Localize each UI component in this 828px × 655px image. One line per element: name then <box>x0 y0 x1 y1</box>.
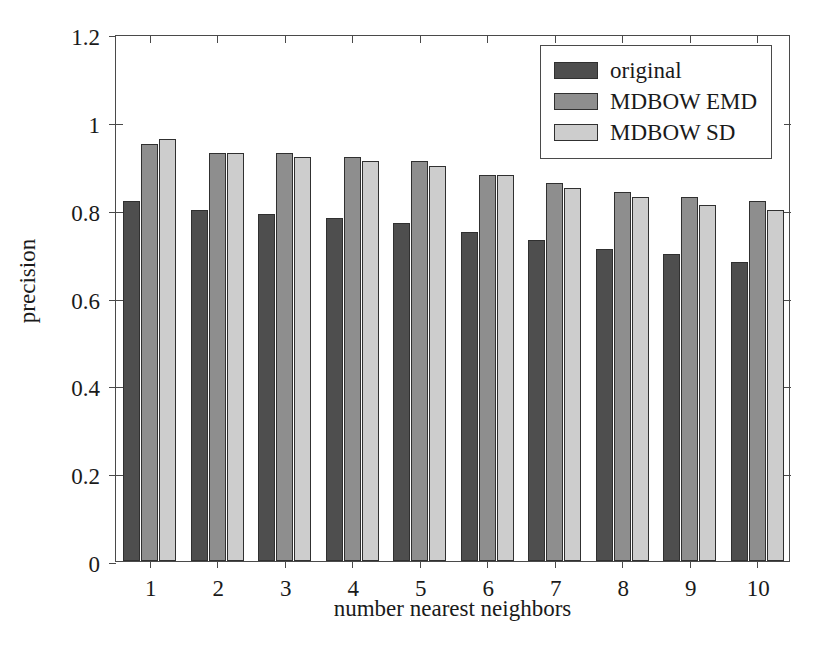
bar <box>681 197 698 562</box>
bar <box>663 254 680 561</box>
y-tick-right <box>784 124 791 125</box>
bar <box>294 157 311 561</box>
y-tick-0.2: 0.2 <box>109 475 116 476</box>
x-tick-top <box>757 36 758 43</box>
bar <box>767 210 784 561</box>
bar <box>614 192 631 561</box>
bar <box>123 201 140 561</box>
x-tick-3: 3 <box>285 561 286 568</box>
bar <box>479 175 496 561</box>
bar <box>191 210 208 561</box>
y-tick-label: 1.2 <box>71 26 100 49</box>
bar <box>731 262 748 561</box>
bar <box>276 153 293 561</box>
y-tick-0.8: 0.8 <box>109 212 116 213</box>
legend-swatch-icon <box>554 124 598 141</box>
bar <box>632 197 649 562</box>
legend-label: original <box>610 59 682 82</box>
y-tick-inner <box>116 475 123 476</box>
x-tick-7: 7 <box>555 561 556 568</box>
bar <box>411 161 428 561</box>
y-tick-0.4: 0.4 <box>109 387 116 388</box>
bar <box>362 161 379 561</box>
legend-item-mdbow-sd: MDBOW SD <box>554 117 757 148</box>
y-tick-label: 0.2 <box>71 465 100 488</box>
x-tick-top <box>690 36 691 43</box>
x-tick-2: 2 <box>217 561 218 568</box>
bar <box>141 144 158 561</box>
legend-label: MDBOW EMD <box>610 90 757 113</box>
bar <box>461 232 478 561</box>
x-tick-top <box>217 36 218 43</box>
bar <box>528 240 545 561</box>
x-tick-top <box>622 36 623 43</box>
x-tick-10: 10 <box>757 561 758 568</box>
bar <box>564 188 581 561</box>
bar-chart-figure: precision 00.20.40.60.811.2 12345678910 … <box>0 0 828 655</box>
y-tick-inner <box>116 212 123 213</box>
bar <box>596 249 613 561</box>
x-tick-5: 5 <box>420 561 421 568</box>
y-tick-label: 0.8 <box>71 201 100 224</box>
x-tick-top <box>555 36 556 43</box>
bar <box>546 183 563 561</box>
x-tick-top <box>150 36 151 43</box>
x-tick-4: 4 <box>352 561 353 568</box>
bar <box>344 157 361 561</box>
legend-label: MDBOW SD <box>610 121 735 144</box>
chart-legend: originalMDBOW EMDMDBOW SD <box>540 45 772 159</box>
y-tick-inner <box>116 124 123 125</box>
x-tick-9: 9 <box>690 561 691 568</box>
bar <box>749 201 766 561</box>
y-tick-0.6: 0.6 <box>109 300 116 301</box>
legend-item-original: original <box>554 55 757 86</box>
y-tick-inner <box>116 300 123 301</box>
x-axis-title: number nearest neighbors <box>115 596 790 622</box>
y-tick-label: 0 <box>89 553 101 576</box>
y-tick-label: 0.6 <box>71 289 100 312</box>
x-tick-top <box>285 36 286 43</box>
bar <box>326 218 343 561</box>
bar <box>209 153 226 561</box>
x-tick-top <box>420 36 421 43</box>
y-tick-label: 0.4 <box>71 377 100 400</box>
x-tick-6: 6 <box>487 561 488 568</box>
x-tick-top <box>487 36 488 43</box>
y-tick-0: 0 <box>109 563 116 564</box>
legend-item-mdbow-emd: MDBOW EMD <box>554 86 757 117</box>
y-tick-right <box>784 212 791 213</box>
bar <box>429 166 446 561</box>
bar <box>258 214 275 561</box>
y-axis-title: precision <box>10 0 46 562</box>
bar <box>497 175 514 561</box>
x-tick-top <box>352 36 353 43</box>
y-tick-right <box>784 475 791 476</box>
bar <box>227 153 244 561</box>
bar <box>699 205 716 561</box>
y-tick-1.2: 1.2 <box>109 36 116 37</box>
y-tick-right <box>784 300 791 301</box>
y-tick-right <box>784 387 791 388</box>
y-tick-inner <box>116 387 123 388</box>
bar <box>393 223 410 561</box>
legend-swatch-icon <box>554 62 598 79</box>
y-tick-1: 1 <box>109 124 116 125</box>
bar <box>159 139 176 561</box>
x-tick-8: 8 <box>622 561 623 568</box>
y-tick-label: 1 <box>89 113 101 136</box>
x-tick-1: 1 <box>150 561 151 568</box>
legend-swatch-icon <box>554 93 598 110</box>
